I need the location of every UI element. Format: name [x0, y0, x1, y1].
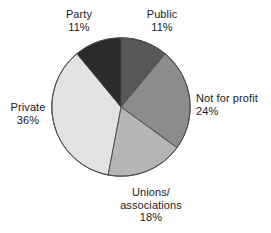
- slice-label-not-for-profit-value: 24%: [196, 105, 270, 118]
- slice-label-unions-associations: Unions/ associations 18%: [103, 186, 199, 224]
- slice-label-unions-name-1: Unions/: [103, 186, 199, 199]
- slice-label-party-name: Party: [47, 8, 111, 21]
- slice-label-not-for-profit: Not for profit 24%: [196, 92, 270, 117]
- slice-label-public-name: Public: [131, 8, 193, 21]
- slice-label-party-value: 11%: [47, 21, 111, 34]
- slice-label-unions-name-2: associations: [103, 199, 199, 212]
- slice-label-unions-value: 18%: [103, 211, 199, 224]
- slice-label-public: Public 11%: [131, 8, 193, 33]
- slice-label-not-for-profit-name: Not for profit: [196, 92, 270, 105]
- pie-chart-canvas: [51, 37, 191, 177]
- slice-label-private: Private 36%: [2, 101, 54, 126]
- pie-chart-figure: Party 11% Public 11% Not for profit 24% …: [0, 0, 271, 233]
- slice-label-private-value: 36%: [2, 114, 54, 127]
- slice-label-party: Party 11%: [47, 8, 111, 33]
- slice-label-private-name: Private: [2, 101, 54, 114]
- pie-chart-svg: [51, 37, 191, 177]
- pie-slice-group: [52, 38, 190, 176]
- slice-label-public-value: 11%: [131, 21, 193, 34]
